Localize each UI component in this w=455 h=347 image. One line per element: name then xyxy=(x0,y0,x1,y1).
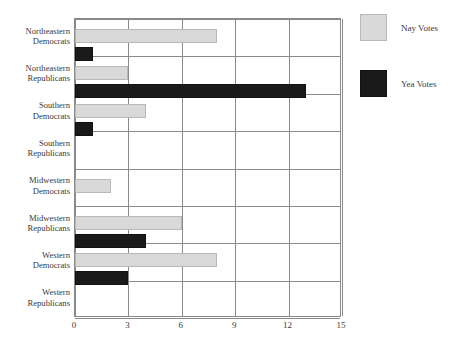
y-axis-label-line: Northeastern xyxy=(0,26,70,36)
bar-nay-votes[interactable] xyxy=(75,29,217,43)
bar-group xyxy=(75,206,340,243)
y-axis-label: NortheasternDemocrats xyxy=(0,26,70,47)
y-axis-label-line: Democrats xyxy=(0,36,70,46)
y-axis-label: WesternRepublicans xyxy=(0,287,70,308)
y-axis-label-line: Republicans xyxy=(0,73,70,83)
legend-item-yea[interactable]: Yea Votes xyxy=(360,70,437,97)
x-axis-tick-label: 0 xyxy=(72,320,77,330)
y-axis-category-labels: NortheasternDemocratsNortheasternRepubli… xyxy=(0,18,70,317)
y-axis-label-line: Midwestern xyxy=(0,213,70,223)
y-axis-label: MidwesternRepublicans xyxy=(0,213,70,234)
x-axis-tick-label: 12 xyxy=(283,320,292,330)
y-axis-label: NortheasternRepublicans xyxy=(0,63,70,84)
bar-chart-figure: NortheasternDemocratsNortheasternRepubli… xyxy=(0,0,455,347)
bar-nay-votes[interactable] xyxy=(75,253,217,267)
legend-item-nay[interactable]: Nay Votes xyxy=(360,14,438,41)
bar-nay-votes[interactable] xyxy=(75,179,111,193)
vertical-gridline xyxy=(342,19,343,316)
y-axis-label-line: Republicans xyxy=(0,298,70,308)
bar-group xyxy=(75,169,340,206)
y-axis-label: WesternDemocrats xyxy=(0,250,70,271)
bar-nay-votes[interactable] xyxy=(75,104,146,118)
horizontal-gridline xyxy=(75,318,340,319)
y-axis-label: SouthernDemocrats xyxy=(0,100,70,121)
y-axis-label-line: Midwestern xyxy=(0,175,70,185)
nay-swatch-icon xyxy=(360,14,387,41)
y-axis-label-line: Southern xyxy=(0,100,70,110)
y-axis-label-line: Democrats xyxy=(0,111,70,121)
y-axis-label-line: Southern xyxy=(0,138,70,148)
x-axis-tick-label: 6 xyxy=(179,320,184,330)
bar-group xyxy=(75,94,340,131)
legend-label-nay: Nay Votes xyxy=(401,23,438,33)
bar-group xyxy=(75,56,340,93)
y-axis-label-line: Democrats xyxy=(0,186,70,196)
bar-group xyxy=(75,19,340,56)
y-axis-label-line: Western xyxy=(0,287,70,297)
x-axis-tick-label: 3 xyxy=(125,320,130,330)
bar-group xyxy=(75,281,340,318)
bar-group xyxy=(75,243,340,280)
bar-nay-votes[interactable] xyxy=(75,66,128,80)
y-axis-label-line: Northeastern xyxy=(0,63,70,73)
y-axis-label-line: Republicans xyxy=(0,148,70,158)
plot-area xyxy=(74,18,341,317)
y-axis-label-line: Western xyxy=(0,250,70,260)
y-axis-label-line: Republicans xyxy=(0,223,70,233)
yea-swatch-icon xyxy=(360,70,387,97)
legend-label-yea: Yea Votes xyxy=(401,79,437,89)
bar-group xyxy=(75,131,340,168)
y-axis-label: SouthernRepublicans xyxy=(0,138,70,159)
x-axis-tick-label: 9 xyxy=(232,320,237,330)
x-axis-tick-labels: 03691215 xyxy=(74,320,341,336)
bar-nay-votes[interactable] xyxy=(75,216,182,230)
y-axis-label-line: Democrats xyxy=(0,260,70,270)
x-axis-tick-label: 15 xyxy=(337,320,346,330)
y-axis-label: MidwesternDemocrats xyxy=(0,175,70,196)
